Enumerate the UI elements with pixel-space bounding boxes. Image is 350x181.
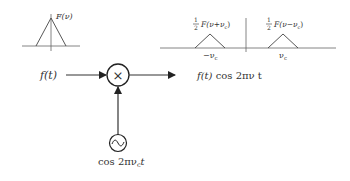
right-sideband-label: 1 2 F(ν−νc) bbox=[266, 16, 303, 31]
multiply-icon: × bbox=[113, 68, 124, 83]
right-axis-label: νc bbox=[279, 51, 287, 61]
right-sideband-triangle bbox=[268, 34, 298, 48]
left-sideband-triangle bbox=[195, 34, 225, 48]
multiplier: × bbox=[107, 64, 129, 86]
right-sideband-text: F(ν−νc) bbox=[273, 20, 303, 30]
left-axis-label: −νc bbox=[203, 51, 218, 61]
output-label: f(t) cos 2πν t bbox=[196, 70, 262, 81]
oscillator-label: cos 2πνct bbox=[98, 156, 146, 169]
modulation-diagram: F(ν) 1 2 F(ν+νc) 1 2 F(ν−νc) −νc bbox=[0, 0, 350, 181]
baseband-spectrum: F(ν) bbox=[22, 12, 80, 51]
oscillator bbox=[110, 135, 127, 152]
fraction-numerator: 1 bbox=[267, 16, 271, 23]
fraction-numerator: 1 bbox=[194, 16, 198, 23]
left-sideband-label: 1 2 F(ν+νc) bbox=[193, 16, 230, 31]
baseband-label: F(ν) bbox=[55, 12, 73, 21]
fraction-denominator: 2 bbox=[194, 24, 198, 31]
modulated-spectrum: 1 2 F(ν+νc) 1 2 F(ν−νc) −νc νc bbox=[160, 16, 336, 61]
left-sideband-text: F(ν+νc) bbox=[200, 20, 230, 30]
fraction-denominator: 2 bbox=[267, 24, 271, 31]
input-label: f(t) bbox=[39, 69, 57, 82]
block-diagram: f(t) × f(t) cos 2πν t cos 2πνct bbox=[39, 64, 262, 169]
